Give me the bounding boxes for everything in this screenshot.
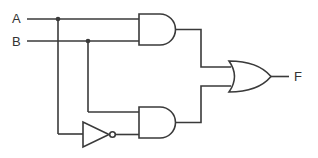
and-gate-1 xyxy=(139,14,175,45)
wire-and1-to-or xyxy=(176,30,231,68)
not-bubble xyxy=(110,132,116,138)
and-gate-2 xyxy=(139,107,176,138)
not-gate xyxy=(83,122,109,147)
junction-b xyxy=(86,39,91,44)
or-gate xyxy=(229,61,271,92)
circuit-diagram xyxy=(0,0,318,158)
wire-and2-to-or xyxy=(176,86,231,123)
wire-a xyxy=(27,19,139,134)
junction-a xyxy=(56,17,61,22)
wire-b xyxy=(27,41,139,112)
